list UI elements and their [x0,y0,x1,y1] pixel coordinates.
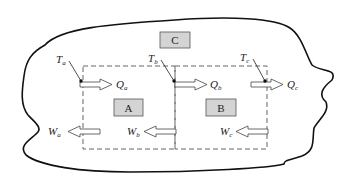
work-arrow-wb [144,126,176,137]
label-wb: Wb [127,125,140,139]
label-tc: Tc [240,51,250,65]
svg-text:A: A [125,102,133,114]
thermodynamic-system-diagram: C A B Ta Tb Tc Qa Qb [0,0,356,186]
subsystem-a-box: A [114,99,143,116]
temperature-pointer-ta [69,61,83,83]
work-arrow-wc [236,126,268,137]
label-wa: Wa [48,125,61,139]
label-qb: Qb [210,78,222,92]
work-arrow-wa [68,126,100,137]
heat-arrow-qb [175,79,207,90]
label-tb: Tb [148,52,158,66]
subsystem-b-box: B [206,99,236,116]
svg-text:B: B [217,102,224,114]
label-wc: Wc [220,125,233,139]
label-qa: Qa [116,78,128,92]
label-ta: Ta [56,53,66,67]
temperature-pointer-tc [253,59,267,83]
svg-text:C: C [171,34,178,46]
heat-arrow-qa [80,79,112,90]
subsystem-c-box: C [160,32,190,48]
temperature-pointer-tb [161,60,176,83]
label-qc: Qc [287,78,299,92]
